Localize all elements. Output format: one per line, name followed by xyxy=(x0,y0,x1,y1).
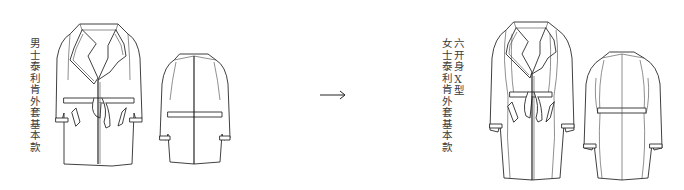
arrow-right-icon xyxy=(318,89,348,101)
men-coat-label: 男士泰利肯外套基本款 xyxy=(28,38,39,153)
women-coat-label-line1: 六开身X型 xyxy=(452,38,463,97)
men-trench-back-sketch xyxy=(158,50,232,168)
women-trench-back-sketch xyxy=(578,48,668,184)
women-coat-label-line2: 女士泰利肯外套基本款 xyxy=(440,38,451,153)
men-trench-front-sketch xyxy=(52,18,146,170)
women-trench-front-sketch xyxy=(486,18,578,184)
